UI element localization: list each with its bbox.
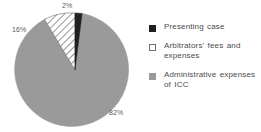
hatched-square-icon (149, 44, 156, 51)
legend-item-administrative-expenses: Administrative expenses of ICC (149, 70, 261, 91)
black-square-icon (149, 25, 156, 32)
legend-item-arbitrators-fees: Arbitrators' fees and expenses (149, 41, 261, 62)
gray-square-icon (149, 73, 156, 80)
pie-label-administrative-expenses: 82% (109, 109, 123, 117)
pie-label-presenting-case: 2% (62, 2, 72, 10)
legend-label-administrative-expenses: Administrative expenses of ICC (164, 70, 261, 91)
legend-item-presenting-case: Presenting case (149, 22, 261, 33)
pie-chart-plot-area: 2% 16% 82% (0, 0, 150, 132)
pie-label-arbitrators-fees: 16% (12, 26, 26, 34)
pie-chart-svg (0, 0, 150, 132)
chart-legend: Presenting case Arbitrators' fees and ex… (149, 22, 261, 99)
legend-label-presenting-case: Presenting case (164, 22, 225, 33)
pie-chart-figure: 2% 16% 82% Presenting case Arbitrators' … (0, 0, 261, 132)
legend-label-arbitrators-fees: Arbitrators' fees and expenses (164, 41, 261, 62)
